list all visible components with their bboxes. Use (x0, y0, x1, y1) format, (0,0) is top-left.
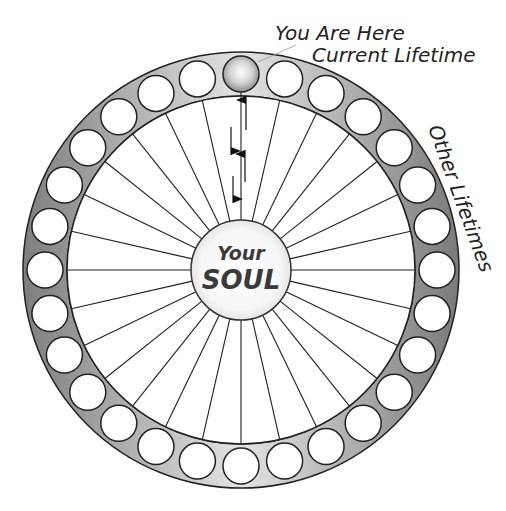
other-lifetime-circle (414, 296, 450, 332)
other-lifetime-circle (400, 337, 436, 373)
other-lifetime-circle (308, 429, 344, 465)
other-lifetime-circle (70, 130, 106, 166)
other-lifetime-circle (101, 405, 137, 441)
soul-label-your: Your (217, 242, 266, 264)
other-lifetime-circle (101, 99, 137, 135)
soul-label-soul: SOUL (202, 265, 281, 295)
other-lifetime-circle (414, 208, 450, 244)
other-lifetime-circle (400, 167, 436, 203)
other-lifetime-circle (46, 337, 82, 373)
other-lifetime-circle (179, 443, 215, 479)
other-lifetime-circle (376, 374, 412, 410)
wheel-canvas: Your SOUL You Are Here Current Lifetime … (0, 0, 506, 511)
other-lifetime-circle (267, 61, 303, 97)
soul-wheel-diagram: Your SOUL You Are Here Current Lifetime … (0, 0, 506, 511)
you-are-here-label: You Are Here (275, 21, 405, 45)
other-lifetime-circle (267, 443, 303, 479)
other-lifetime-circle (32, 296, 68, 332)
other-lifetime-circle (46, 167, 82, 203)
other-lifetime-circle (419, 252, 455, 288)
other-lifetime-circle (345, 99, 381, 135)
other-lifetime-circle (376, 130, 412, 166)
other-lifetime-circle (32, 208, 68, 244)
other-lifetime-circle (70, 374, 106, 410)
current-lifetime-label: Current Lifetime (312, 43, 476, 67)
other-lifetime-circle (345, 405, 381, 441)
other-lifetime-circle (138, 429, 174, 465)
other-lifetime-circle (223, 448, 259, 484)
other-lifetime-circle (27, 252, 63, 288)
current-lifetime-ball (223, 56, 259, 92)
other-lifetime-circle (179, 61, 215, 97)
other-lifetime-circle (308, 75, 344, 111)
other-lifetime-circle (138, 75, 174, 111)
